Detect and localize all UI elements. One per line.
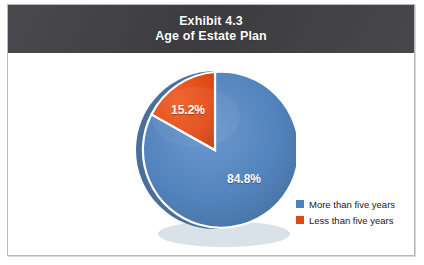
pie-chart [134, 69, 296, 231]
pie-data-label-more-than-five-years: 84.8% [227, 172, 261, 186]
chart-legend: More than five years Less than five year… [296, 197, 408, 229]
legend-swatch-icon-orange [296, 216, 304, 224]
legend-swatch-icon-blue [296, 200, 304, 208]
exhibit-title-line-2: Age of Estate Plan [155, 29, 267, 44]
exhibit-frame: Exhibit 4.3 Age of Estate Plan [7, 4, 415, 256]
legend-label-more-than-five-years: More than five years [309, 199, 395, 210]
exhibit-title-bar: Exhibit 4.3 Age of Estate Plan [8, 5, 414, 53]
exhibit-title-line-1: Exhibit 4.3 [179, 14, 243, 29]
legend-item-less-than-five-years[interactable]: Less than five years [296, 213, 408, 227]
chart-plot-area: 15.2% 84.8% More than five years Less th… [8, 53, 414, 255]
legend-label-less-than-five-years: Less than five years [309, 215, 394, 226]
pie-data-label-less-than-five-years: 15.2% [171, 103, 205, 117]
legend-item-more-than-five-years[interactable]: More than five years [296, 197, 408, 211]
